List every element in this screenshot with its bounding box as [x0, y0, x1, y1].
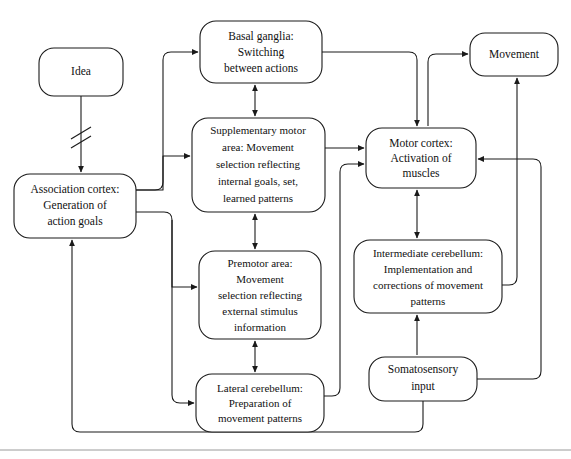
node-supplementary-motor-area[interactable]: Supplementary motor area: Movement selec… [192, 118, 325, 212]
node-movement[interactable]: Movement [470, 33, 558, 76]
node-association-cortex-label-line-1: Association cortex: [30, 183, 119, 195]
node-somatosensory-input-label-line-2: input [411, 380, 435, 393]
edge-intermediate-cerebellum-to-movement [502, 78, 517, 285]
nodes-layer: Idea Association cortex: Generation of a… [14, 21, 558, 432]
node-premotor-area-label-line-3: selection reflecting [218, 289, 302, 301]
edge-basal-ganglia-to-motor-cortex [322, 52, 417, 126]
node-basal-ganglia-label-line-1: Basal ganglia: [228, 30, 293, 43]
node-motor-cortex[interactable]: Motor cortex: Activation of muscles [366, 128, 476, 188]
node-basal-ganglia[interactable]: Basal ganglia: Switching between actions [200, 21, 322, 83]
edge-association-cortex-to-premotor-area [136, 212, 197, 287]
node-association-cortex[interactable]: Association cortex: Generation of action… [14, 174, 136, 238]
edge-association-cortex-to-supplementary-motor-area [136, 156, 190, 190]
node-premotor-area-label-line-2: Movement [236, 273, 284, 285]
node-lateral-cerebellum-label-line-3: movement patterns [218, 412, 302, 424]
node-association-cortex-label-line-2: Generation of [43, 199, 107, 211]
node-idea-label: Idea [71, 65, 91, 77]
node-supplementary-motor-area-label-line-2: area: Movement [222, 141, 294, 153]
flow-diagram-canvas: Idea Association cortex: Generation of a… [0, 0, 571, 459]
node-idea[interactable]: Idea [39, 48, 123, 96]
node-association-cortex-label-line-3: action goals [47, 215, 103, 228]
node-supplementary-motor-area-label-line-1: Supplementary motor [210, 124, 306, 136]
node-lateral-cerebellum-label-line-2: Preparation of [229, 397, 292, 409]
node-premotor-area-label-line-1: Premotor area: [227, 257, 292, 269]
node-basal-ganglia-label-line-2: Switching [238, 46, 285, 59]
node-motor-cortex-label-line-2: Activation of [391, 152, 452, 164]
edge-association-cortex-to-basal-ganglia [136, 52, 198, 190]
flow-diagram: Idea Association cortex: Generation of a… [0, 0, 571, 459]
node-intermediate-cerebellum-label-line-1: Intermediate cerebellum: [373, 247, 483, 259]
node-intermediate-cerebellum[interactable]: Intermediate cerebellum: Implementation … [354, 240, 502, 313]
node-premotor-area[interactable]: Premotor area: Movement selection reflec… [199, 251, 321, 339]
node-lateral-cerebellum[interactable]: Lateral cerebellum: Preparation of movem… [196, 374, 324, 432]
node-motor-cortex-label-line-1: Motor cortex: [389, 137, 453, 149]
node-supplementary-motor-area-label-line-3: selection reflecting [216, 158, 300, 170]
node-lateral-cerebellum-label-line-1: Lateral cerebellum: [217, 382, 303, 394]
node-movement-label: Movement [489, 48, 540, 60]
node-intermediate-cerebellum-label-line-4: patterns [411, 295, 446, 307]
node-premotor-area-label-line-5: information [234, 321, 286, 333]
node-somatosensory-input[interactable]: Somatosensory input [369, 357, 477, 401]
node-intermediate-cerebellum-label-line-2: Implementation and [384, 263, 473, 275]
node-supplementary-motor-area-label-line-5: learned patterns [223, 192, 293, 204]
node-intermediate-cerebellum-label-line-3: corrections of movement [373, 279, 483, 291]
node-supplementary-motor-area-label-line-4: internal goals, set, [218, 175, 298, 187]
node-basal-ganglia-label-line-3: between actions [224, 62, 298, 74]
edge-motor-cortex-to-movement [428, 54, 468, 126]
edge-association-cortex-to-lateral-cerebellum [172, 220, 194, 403]
node-premotor-area-label-line-4: external stimulus [222, 305, 297, 317]
node-somatosensory-input-label-line-1: Somatosensory [388, 363, 459, 376]
node-motor-cortex-label-line-3: muscles [402, 167, 440, 179]
